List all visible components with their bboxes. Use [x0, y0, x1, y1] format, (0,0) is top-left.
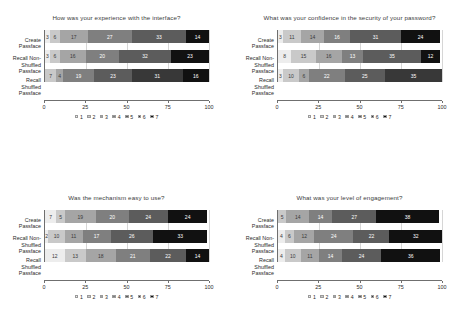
gridline	[442, 30, 443, 82]
y-axis-label: RecallShuffledPassface	[0, 256, 41, 278]
x-axis-tick-label: 75	[398, 104, 404, 110]
legend-item[interactable]: 1	[308, 294, 316, 300]
legend-item[interactable]: 1	[75, 294, 83, 300]
bar-group: 361727331436162032237419233116	[45, 30, 209, 82]
bar-segment: 15	[291, 50, 316, 63]
bar-segment: 10	[285, 249, 301, 262]
legend-item[interactable]: 1	[75, 114, 83, 120]
chart-grid: How was your experience with the interfa…	[0, 0, 466, 311]
bar-segment: 11	[65, 230, 83, 243]
plot-wrapper: CreatePassfaceRecall Non-ShuffledPassfac…	[0, 30, 233, 100]
legend-label: 3	[338, 114, 341, 120]
bar-segment: 13	[342, 50, 363, 63]
bar-segment: 7	[45, 210, 56, 223]
x-axis-tick-label: 25	[82, 284, 88, 290]
legend-item[interactable]: 7	[383, 114, 391, 120]
legend-item[interactable]: 7	[150, 114, 158, 120]
legend-item[interactable]: 3	[333, 114, 341, 120]
legend-item[interactable]: 5	[125, 294, 133, 300]
legend-label: 2	[325, 294, 328, 300]
legend-item[interactable]: 6	[371, 114, 379, 120]
plot-wrapper: CreatePassfaceRecall Non-ShuffledPassfac…	[0, 210, 233, 280]
legend-item[interactable]: 2	[87, 294, 95, 300]
legend-item[interactable]: 4	[345, 114, 353, 120]
legend-item[interactable]: 4	[112, 294, 120, 300]
legend-swatch-icon	[320, 115, 324, 119]
legend-label: 1	[313, 294, 316, 300]
bar-segment: 31	[350, 30, 401, 43]
bar-segment: 14	[286, 210, 309, 223]
legend-swatch-icon	[125, 295, 129, 299]
bar-stack: 3617273314	[45, 30, 209, 43]
y-axis-labels: CreatePassfaceRecall Non-ShuffledPassfac…	[0, 210, 44, 280]
legend-item[interactable]: 3	[100, 114, 108, 120]
x-axis-tick-label: 25	[82, 104, 88, 110]
legend-swatch-icon	[112, 115, 116, 119]
legend-item[interactable]: 4	[112, 114, 120, 120]
legend-swatch-icon	[150, 295, 154, 299]
y-axis-label-line: Passface	[0, 43, 41, 49]
bar-segment: 32	[389, 230, 441, 243]
bar-segment: 22	[150, 249, 186, 262]
chart-panel-4: What was your level of engagement?Create…	[233, 156, 466, 311]
legend-item[interactable]: 6	[138, 294, 146, 300]
plot-area: 361727331436162032237419233116	[44, 30, 209, 82]
y-axis-label-line: Passface	[0, 270, 41, 276]
x-axis-tick-label: 100	[438, 104, 447, 110]
bar-segment: 14	[186, 249, 209, 262]
legend-item[interactable]: 7	[383, 294, 391, 300]
bar-stack: 7519202424	[45, 210, 209, 223]
legend-swatch-icon	[333, 115, 337, 119]
legend-swatch-icon	[333, 295, 337, 299]
legend-item[interactable]: 5	[358, 294, 366, 300]
bar-segment: 20	[96, 210, 129, 223]
x-axis-tick-label: 100	[205, 284, 214, 290]
legend-label: 5	[363, 294, 366, 300]
bar-stack: 41011142436	[278, 249, 442, 262]
legend-swatch-icon	[383, 115, 387, 119]
bar-segment: 22	[309, 69, 345, 82]
bar-stack: 3106222535	[278, 69, 442, 82]
x-axis-tick-label: 100	[205, 104, 214, 110]
bar-segment: 5	[278, 210, 286, 223]
x-axis: 0255075100	[44, 101, 209, 112]
legend-swatch-icon	[358, 295, 362, 299]
bar-stack: 3616203223	[45, 50, 209, 63]
legend-item[interactable]: 4	[345, 294, 353, 300]
bar-segment: 6	[50, 30, 60, 43]
bar-segment: 12	[45, 249, 65, 262]
bar-segment: 24	[401, 30, 440, 43]
legend-item[interactable]: 7	[150, 294, 158, 300]
legend-item[interactable]: 3	[333, 294, 341, 300]
y-axis-label-line: Passface	[233, 223, 274, 229]
gridline	[209, 30, 210, 82]
x-axis-tick-label: 0	[276, 284, 279, 290]
chart-panel-3: Was the mechanism easy to use?CreatePass…	[0, 156, 233, 311]
y-axis-label: CreatePassface	[0, 32, 41, 54]
legend-item[interactable]: 5	[358, 114, 366, 120]
legend-item[interactable]: 6	[371, 294, 379, 300]
y-axis-label: RecallShuffledPassface	[0, 76, 41, 98]
legend-item[interactable]: 2	[320, 114, 328, 120]
legend-swatch-icon	[371, 115, 375, 119]
legend-item[interactable]: 5	[125, 114, 133, 120]
legend-swatch-icon	[87, 115, 91, 119]
legend-item[interactable]: 2	[87, 114, 95, 120]
chart-title: What was your level of engagement?	[233, 194, 466, 201]
legend-label: 7	[155, 114, 158, 120]
bar-segment: 27	[332, 210, 376, 223]
bar-segment: 17	[83, 230, 111, 243]
bar-segment: 24	[168, 210, 207, 223]
legend-item[interactable]: 3	[100, 294, 108, 300]
bar-segment: 36	[381, 249, 440, 262]
y-axis-label-line: Passface	[0, 68, 41, 74]
bar-segment: 14	[301, 30, 324, 43]
legend-item[interactable]: 2	[320, 294, 328, 300]
legend-label: 6	[376, 294, 379, 300]
legend-item[interactable]: 1	[308, 114, 316, 120]
legend-swatch-icon	[345, 295, 349, 299]
legend-item[interactable]: 6	[138, 114, 146, 120]
bar-segment: 11	[283, 30, 301, 43]
legend-swatch-icon	[358, 115, 362, 119]
bar-segment: 23	[94, 69, 132, 82]
